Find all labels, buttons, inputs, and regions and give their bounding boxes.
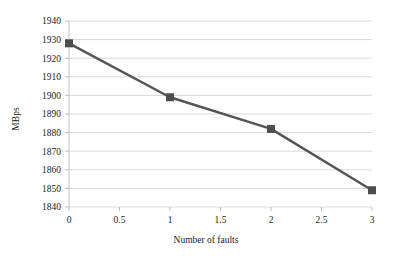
x-axis-tick-label: 1 xyxy=(168,215,173,225)
y-axis-tick-label: 1850 xyxy=(42,184,61,194)
data-point-marker xyxy=(267,125,275,133)
y-axis-tick-label: 1890 xyxy=(42,109,61,119)
data-point-marker xyxy=(368,186,376,194)
x-axis-tick-label: 2 xyxy=(269,215,274,225)
y-axis-tick-label: 1940 xyxy=(42,16,61,26)
y-axis-tick-label: 1860 xyxy=(42,165,61,175)
y-axis-tick-label: 1900 xyxy=(42,91,61,101)
y-axis-tick-label: 1870 xyxy=(42,147,61,157)
x-axis-tick-label: 0.5 xyxy=(114,215,126,225)
x-axis-tick-label: 3 xyxy=(370,215,375,225)
x-axis-tick-label: 2.5 xyxy=(316,215,328,225)
x-axis-tick-label: 0 xyxy=(67,215,72,225)
y-axis-tick-label: 1920 xyxy=(42,54,61,64)
chart-container: 1840185018601870188018901900191019201930… xyxy=(0,0,393,259)
data-point-marker xyxy=(166,93,174,101)
y-axis-tick-label: 1840 xyxy=(42,202,61,212)
x-axis-tick-label: 1.5 xyxy=(215,215,227,225)
x-axis-title: Number of faults xyxy=(174,235,239,245)
y-axis-tick-label: 1910 xyxy=(42,72,61,82)
data-point-marker xyxy=(65,39,73,47)
y-axis-tick-label: 1930 xyxy=(42,35,61,45)
y-axis-tick-label: 1880 xyxy=(42,128,61,138)
y-axis-title: MBps xyxy=(11,107,21,131)
line-chart: 1840185018601870188018901900191019201930… xyxy=(0,0,393,259)
